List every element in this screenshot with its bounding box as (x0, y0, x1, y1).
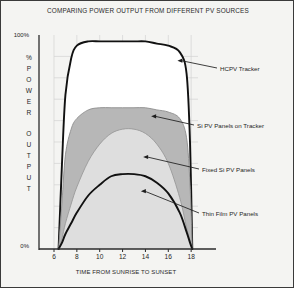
x-axis-title: TIME FROM SUNRISE TO SUNSET (1, 269, 251, 275)
y-axis-title-letter (23, 118, 35, 129)
annotation-label-fixed-si-pv-panels: Fixed Si PV Panels (202, 166, 255, 173)
x-axis-tick-label: 10 (93, 253, 107, 260)
y-axis-tick-label-max: 100% (7, 32, 29, 38)
x-axis-tick-label: 18 (184, 253, 198, 260)
annotation-label-si-pv-panels-on-tracker: Si PV Panels on Tracker (197, 122, 264, 129)
y-axis-title-letter: U (23, 173, 35, 184)
chart-plot-area (1, 1, 294, 288)
y-axis-title-letter: O (23, 75, 35, 86)
annotation-leader-line (181, 61, 217, 68)
y-axis-title-letter: T (23, 151, 35, 162)
y-axis-title-letter: T (23, 184, 35, 195)
x-axis-tick-label: 16 (161, 253, 175, 260)
annotation-label-thin-film-pv-panels: Thin Film PV Panels (202, 210, 258, 217)
y-axis-title: %POWER OUTPUT (23, 53, 35, 195)
x-axis-tick-label: 12 (116, 253, 130, 260)
y-axis-title-letter: E (23, 97, 35, 108)
chart-screenshot: COMPARING POWER OUTPUT FROM DIFFERENT PV… (0, 0, 294, 288)
series-layers (59, 41, 193, 249)
annotation-label-hcpv-tracker: HCPV Tracker (220, 65, 260, 72)
y-axis-title-letter: P (23, 64, 35, 75)
x-axis-tick-label: 14 (138, 253, 152, 260)
y-axis-title-letter: P (23, 162, 35, 173)
x-axis-tick-label: 6 (47, 253, 61, 260)
y-axis-title-letter: R (23, 108, 35, 119)
y-axis-title-letter: U (23, 140, 35, 151)
y-axis-title-letter: O (23, 129, 35, 140)
y-axis-title-letter: % (23, 53, 35, 64)
y-axis-title-letter: W (23, 86, 35, 97)
x-axis-tick-label: 8 (70, 253, 84, 260)
y-axis-tick-label-min: 0% (7, 243, 29, 249)
